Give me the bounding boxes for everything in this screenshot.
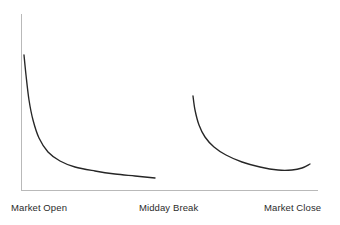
chart-plot-area bbox=[0, 0, 340, 225]
chart-container: Market Open Midday Break Market Close bbox=[0, 0, 340, 225]
series-line-afternoon-session bbox=[193, 96, 310, 170]
x-axis-tick-label-market-close: Market Close bbox=[264, 202, 321, 213]
x-axis-tick-label-midday-break: Midday Break bbox=[139, 202, 198, 213]
series-line-morning-session bbox=[24, 55, 155, 178]
x-axis-tick-label-market-open: Market Open bbox=[11, 202, 67, 213]
